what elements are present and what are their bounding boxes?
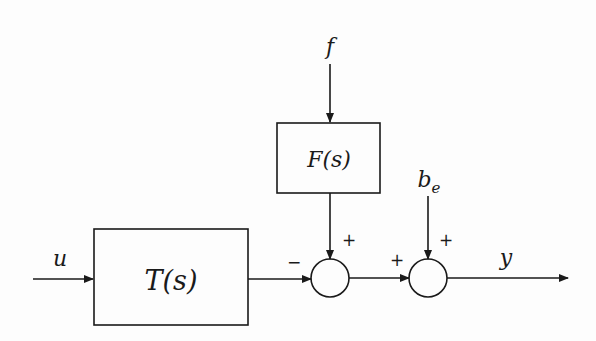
disturbance-label-f: f xyxy=(326,34,334,59)
summing-junction-1 xyxy=(311,259,349,297)
input-label-u: u xyxy=(53,246,67,271)
sum2-plus-sign-top: + xyxy=(439,230,453,250)
summing-junction-2 xyxy=(409,259,447,297)
sum1-minus-sign: − xyxy=(287,252,301,272)
block-diagram: u T(s) f F(s) be y − + + + xyxy=(0,0,596,341)
sum1-plus-sign: + xyxy=(342,230,356,250)
diagram-lines xyxy=(0,0,596,341)
f-block-label: F(s) xyxy=(307,147,351,172)
sum2-plus-sign-left: + xyxy=(390,250,404,270)
bias-label-be: be xyxy=(418,167,441,196)
output-label-y: y xyxy=(500,245,512,270)
t-block-label: T(s) xyxy=(145,265,198,296)
